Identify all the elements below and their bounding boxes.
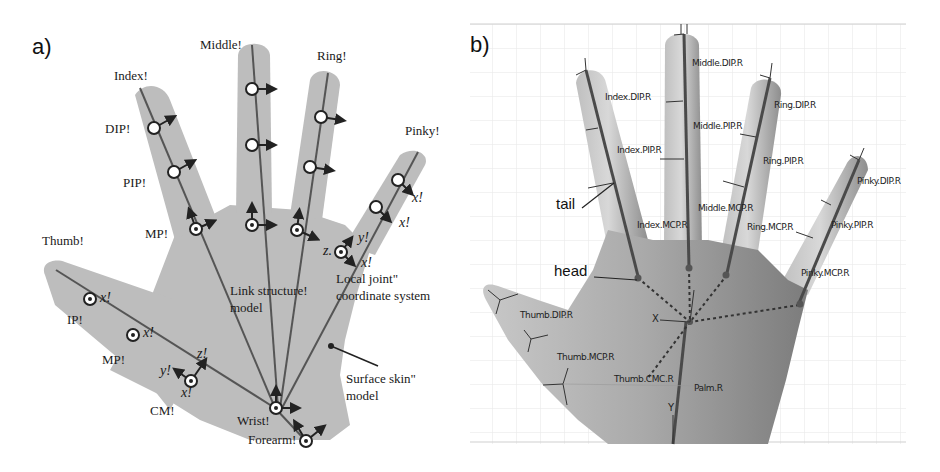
bone-label-middle-pip: Middle.PIP.R xyxy=(693,121,742,131)
label-dip-joint: DIP! xyxy=(105,121,130,137)
bone-label-palm: Palm.R xyxy=(694,383,723,393)
bone-label-middle-dip: Middle.DIP.R xyxy=(692,58,743,68)
bone-label-thumb-cmc: Thumb.CMC.R xyxy=(614,374,673,384)
bone-label-ring-mcp: Ring.MCP.R xyxy=(747,222,793,232)
panel-b-tag: b) xyxy=(470,32,490,58)
label-mp-joint-finger: MP! xyxy=(145,226,168,242)
axis-label-x-palm: X xyxy=(652,313,658,324)
annotation-local-joint-line1: Local joint" xyxy=(336,271,398,287)
panel-a-link-structure-diagram: a) Middle! Ring! Index! Pinky! Thumb! DI… xyxy=(0,0,470,472)
label-pinky-finger: Pinky! xyxy=(405,123,440,139)
annotation-surface-skin-line1: Surface skin" xyxy=(346,371,416,387)
annotation-link-structure-line2: model xyxy=(230,300,263,316)
label-forearm-joint: Forearm! xyxy=(248,432,296,448)
axis-label-y-pinky-mp: y! xyxy=(358,230,369,246)
label-ring-finger: Ring! xyxy=(317,48,347,64)
bone-label-pinky-mcp: Pinky.MCP.R xyxy=(801,268,849,278)
axis-label-y-palm: Y xyxy=(668,402,674,413)
rigged-hand-render xyxy=(468,0,940,472)
bone-label-pinky-dip: Pinky.DIP.R xyxy=(857,176,901,186)
axis-label-y-cm: y! xyxy=(160,363,171,379)
axis-label-x-cm: x! xyxy=(181,385,192,401)
label-thumb: Thumb! xyxy=(42,233,84,249)
panel-b-rigged-hand-model: b) tail head Middle.DIP.R Index.DIP.R Mi… xyxy=(468,0,940,472)
bone-label-pinky-pip: Pinky.PIP.R xyxy=(831,220,873,230)
axis-label-x-pinky-mp: x! xyxy=(361,255,372,271)
annotation-tail: tail xyxy=(556,195,575,212)
bone-label-index-dip: Index.DIP.R xyxy=(605,92,651,102)
axis-label-z-pinky-mp: z. xyxy=(323,243,332,259)
bone-label-index-mcp: Index.MCP.R xyxy=(637,220,687,230)
label-mp-joint-thumb: MP! xyxy=(102,352,125,368)
label-pip-joint: PIP! xyxy=(123,175,146,191)
bone-label-ring-pip: Ring.PIP.R xyxy=(763,156,803,166)
annotation-head: head xyxy=(554,262,587,279)
bone-label-ring-dip: Ring.DIP.R xyxy=(774,100,816,110)
bone-label-thumb-dip: Thumb.DIP.R xyxy=(520,310,573,320)
annotation-surface-skin-line2: model xyxy=(346,388,379,404)
label-index-finger: Index! xyxy=(114,68,148,84)
axis-label-x-ip: x! xyxy=(100,290,111,306)
bone-label-thumb-mcp: Thumb.MCP.R xyxy=(557,352,614,362)
annotation-link-structure-line1: Link structure! xyxy=(230,283,308,299)
annotation-local-joint-line2: coordinate system xyxy=(336,288,430,304)
label-ip-joint: IP! xyxy=(67,312,83,328)
bone-label-middle-mcp: Middle.MCP.R xyxy=(698,203,753,213)
axis-label-x-pinky-pip: x! xyxy=(399,215,410,231)
label-cm-joint: CM! xyxy=(150,403,175,419)
axis-label-x-pinky-dip: x! xyxy=(412,190,423,206)
label-wrist-joint: Wrist! xyxy=(237,413,270,429)
label-middle-finger: Middle! xyxy=(200,37,242,53)
bone-label-index-pip: Index.PIP.R xyxy=(617,145,661,155)
axis-label-z-cm: z! xyxy=(197,346,207,362)
panel-a-tag: a) xyxy=(32,34,52,60)
axis-label-x-mp: x! xyxy=(143,325,154,341)
